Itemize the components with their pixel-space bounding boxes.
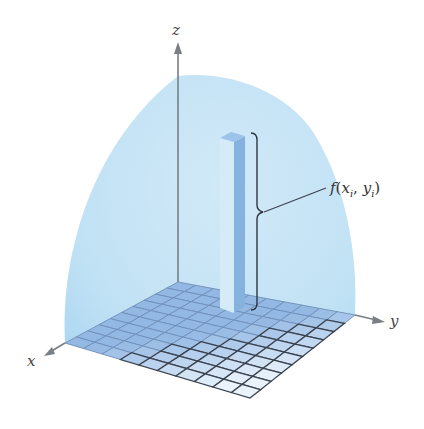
- function-value-label: f(xi, yi): [329, 179, 380, 199]
- column-right-face: [234, 136, 245, 313]
- column-left-face: [220, 138, 234, 313]
- z-axis-label: z: [171, 21, 180, 39]
- z-axis-arrowhead: [174, 42, 182, 54]
- close-paren: ): [374, 179, 380, 197]
- arg-separator: ,: [353, 179, 363, 197]
- x-axis-arrowhead: [44, 347, 55, 356]
- riemann-column-diagram: z x y f(xi, yi): [0, 0, 424, 429]
- y-axis-arrowhead: [372, 316, 385, 324]
- x-axis-label: x: [27, 352, 36, 370]
- riemann-column: [220, 132, 245, 313]
- y-axis-label: y: [389, 312, 399, 330]
